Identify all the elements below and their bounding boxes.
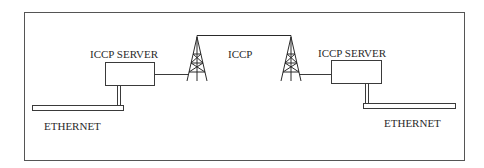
diagram-frame bbox=[25, 13, 465, 161]
right-tower-icon bbox=[281, 37, 301, 81]
right-ethernet-label: ETHERNET bbox=[384, 117, 441, 129]
left-server-label: ICCP SERVER bbox=[90, 48, 159, 60]
left-server-box bbox=[106, 63, 155, 86]
iccp-network-diagram: ICCP SERVER ETHERNET ICCP ICCP SE bbox=[0, 0, 484, 168]
left-ethernet-label: ETHERNET bbox=[44, 120, 101, 132]
left-ethernet-drop bbox=[118, 86, 121, 106]
right-ethernet-bus bbox=[364, 104, 456, 109]
right-ethernet-drop bbox=[366, 84, 369, 104]
right-server-label: ICCP SERVER bbox=[318, 47, 387, 59]
iccp-link-line bbox=[197, 36, 291, 38]
left-tower-icon bbox=[187, 37, 207, 81]
right-server-box bbox=[332, 61, 382, 84]
left-ethernet-bus bbox=[33, 106, 124, 111]
iccp-link-label: ICCP bbox=[228, 48, 252, 60]
